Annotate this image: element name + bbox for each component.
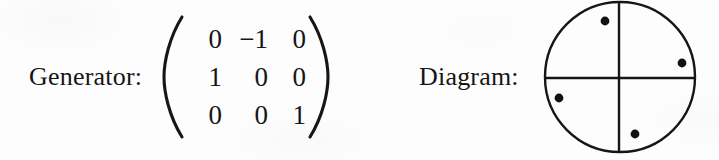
matrix-left-parenthesis [160,14,186,140]
dot-right [678,59,687,68]
dot-lower-left [555,94,564,103]
dot-bottom [631,130,640,139]
matrix-cell-r2c1: 1 [209,64,225,91]
generator-matrix: 0 −1 0 1 0 0 0 0 1 [160,14,332,140]
matrix-grid: 0 −1 0 1 0 0 0 0 1 [184,20,308,134]
generator-label: Generator: [29,64,142,90]
matrix-cell-r3c1: 0 [209,102,225,129]
diagram-label: Diagram: [419,64,519,90]
figure-root: Generator: 0 −1 0 1 0 0 0 0 1 Diagram: [0,0,719,160]
matrix-right-parenthesis [306,14,332,140]
matrix-cell-r2c2: 0 [255,64,271,91]
matrix-cell-r1c1: 0 [209,26,225,53]
circle-diagram [540,0,702,160]
dot-upper-left [601,17,610,26]
matrix-cell-r3c2: 0 [255,102,271,129]
matrix-cell-r1c2: −1 [239,26,270,53]
